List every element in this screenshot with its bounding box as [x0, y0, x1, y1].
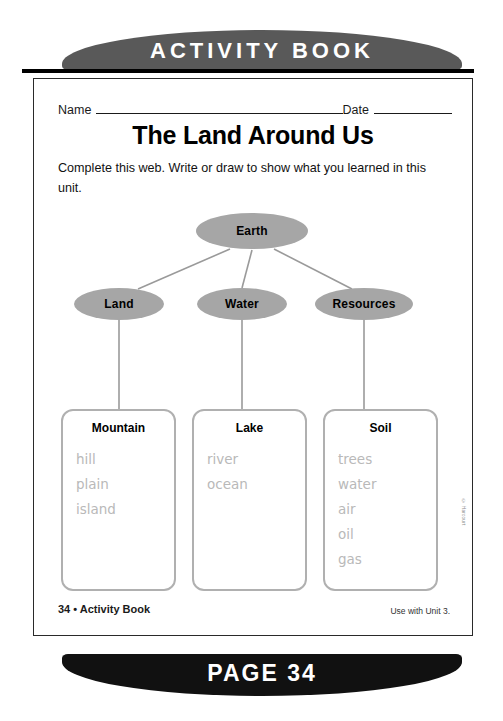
answer-box-soil[interactable]: Soil trees water air oil gas — [323, 409, 438, 591]
page-title: The Land Around Us — [34, 121, 472, 150]
answer-item: oil — [338, 522, 436, 547]
name-date-row: Name Date — [58, 102, 452, 117]
page-number-banner-text: PAGE 34 — [62, 660, 462, 687]
activity-book-banner: ACTIVITY BOOK — [62, 30, 462, 70]
node-earth: Earth — [196, 213, 308, 249]
answer-box-soil-heading: Soil — [325, 421, 436, 435]
date-label: Date — [343, 103, 369, 117]
answer-list-soil: trees water air oil gas — [338, 447, 436, 572]
date-input-line[interactable] — [374, 102, 452, 114]
instructions-text: Complete this web. Write or draw to show… — [58, 159, 428, 198]
footer-unit-note: Use with Unit 3. — [390, 606, 450, 616]
node-resources: Resources — [315, 288, 413, 320]
node-earth-label: Earth — [236, 224, 268, 238]
copyright-notice: © Harcourt — [461, 499, 466, 526]
answer-item: island — [76, 497, 174, 522]
answer-item: air — [338, 497, 436, 522]
answer-item: river — [207, 447, 305, 472]
node-water-label: Water — [225, 297, 259, 311]
name-label: Name — [58, 103, 91, 117]
worksheet-page: Name Date The Land Around Us Complete th… — [33, 78, 473, 636]
page-number-banner: PAGE 34 — [62, 654, 462, 696]
answer-item: water — [338, 472, 436, 497]
answer-box-lake-heading: Lake — [194, 421, 305, 435]
answer-item: gas — [338, 547, 436, 572]
answer-box-mountain-heading: Mountain — [63, 421, 174, 435]
answer-box-lake[interactable]: Lake river ocean — [192, 409, 307, 591]
node-land-label: Land — [104, 297, 133, 311]
answer-box-mountain[interactable]: Mountain hill plain island — [61, 409, 176, 591]
name-input-line[interactable] — [96, 102, 342, 114]
answer-item: trees — [338, 447, 436, 472]
activity-book-banner-text: ACTIVITY BOOK — [62, 38, 462, 64]
answer-list-lake: river ocean — [207, 447, 305, 497]
answer-list-mountain: hill plain island — [76, 447, 174, 522]
node-water: Water — [197, 288, 287, 320]
node-land: Land — [74, 288, 164, 320]
header-rule — [22, 69, 474, 73]
footer-page-credit: 34 • Activity Book — [58, 603, 150, 615]
answer-item: plain — [76, 472, 174, 497]
answer-item: hill — [76, 447, 174, 472]
node-resources-label: Resources — [332, 297, 395, 311]
answer-item: ocean — [207, 472, 305, 497]
